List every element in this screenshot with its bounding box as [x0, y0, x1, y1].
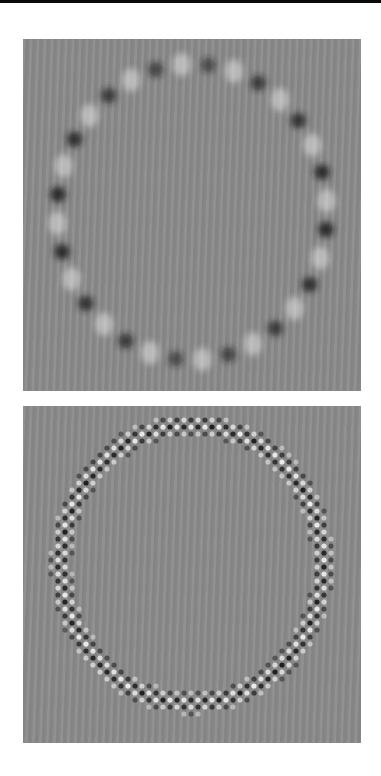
blurred-ring-image [23, 39, 361, 391]
blurred-ring-panel [23, 39, 361, 391]
checkerboard-ring-panel [23, 406, 361, 743]
top-border-bar [0, 0, 381, 3]
checkerboard-ring-image [23, 406, 361, 743]
